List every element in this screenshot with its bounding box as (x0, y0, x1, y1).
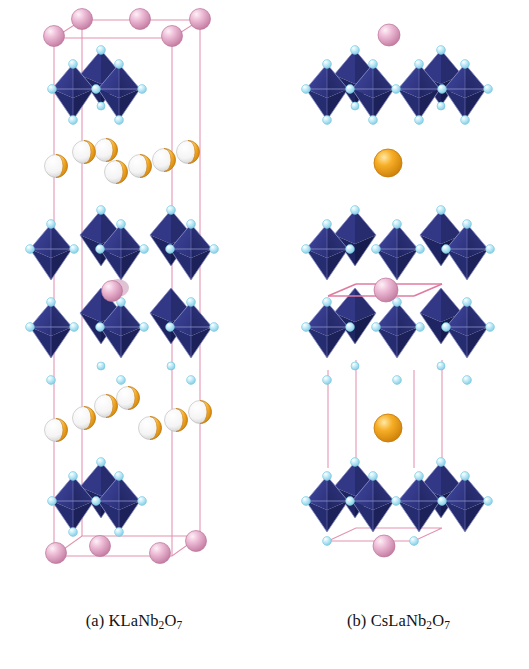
caption-a-formula: KLaNb2O7 (109, 611, 183, 630)
lanthanum-top-b (378, 24, 400, 46)
caesium-upper-b (374, 149, 402, 177)
caesium-lower-b (374, 414, 402, 442)
lanthanum-row-top-a (44, 9, 211, 47)
structure-canvas-b (268, 0, 529, 600)
structure-svg-b (268, 0, 529, 600)
structure-canvas-a (0, 0, 268, 600)
potassium-row-lower-a (45, 387, 212, 442)
panel-klanb2o7 (0, 0, 268, 600)
lanthanum-row-bottom-a (46, 531, 207, 564)
caption-panel-a: (a) KLaNb2O7 (0, 611, 268, 635)
octahedra-row-bottom-b (302, 458, 493, 546)
caption-b-marker: (b) (347, 611, 367, 630)
lanthanum-interior-a (102, 279, 130, 302)
structure-svg-a (0, 0, 268, 600)
octahedra-row-bottom-a (48, 458, 147, 537)
caption-b-formula: CsLaNb2O7 (371, 611, 450, 630)
octahedra-row-top-a (48, 46, 147, 125)
caption-a-marker: (a) (86, 611, 105, 630)
octahedra-row-top-b (302, 46, 493, 125)
potassium-row-upper-a (45, 139, 200, 184)
lanthanum-bottom-b (373, 535, 395, 557)
lanthanum-interior-b (328, 278, 442, 302)
caption-panel-b: (b) CsLaNb2O7 (268, 611, 529, 635)
panel-cslanb2o7 (268, 0, 529, 600)
crystal-structure-figure: (a) KLaNb2O7 (b) CsLaNb2O7 (0, 0, 529, 669)
